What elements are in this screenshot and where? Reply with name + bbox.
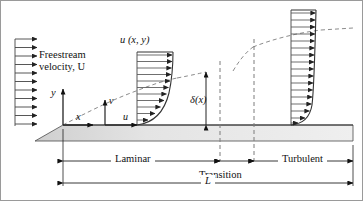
profile-function-label: u (x, y) <box>120 34 149 46</box>
freestream-label-line1: Freestream <box>39 49 86 61</box>
boundary-layer-edge-curve <box>63 28 353 125</box>
length-L-label: L <box>201 175 215 187</box>
region-turbulent-label: Turbulent <box>278 153 327 165</box>
freestream-arrows <box>15 39 37 126</box>
transition-boundaries <box>220 39 254 161</box>
flat-plate <box>35 125 353 141</box>
boundary-layer-diagram: Freestream velocity, U u (x, y) δ(x) y x… <box>0 0 363 201</box>
freestream-label-line2: velocity, U <box>39 61 85 73</box>
axis-x-label: x <box>76 111 81 123</box>
turbulent-velocity-profile <box>291 10 316 125</box>
region-laminar-label: Laminar <box>111 153 155 165</box>
delta-label: δ(x) <box>190 94 207 106</box>
component-u-label: u <box>123 111 128 123</box>
axis-y-label: y <box>51 87 56 99</box>
diagram-canvas <box>1 1 363 201</box>
component-v-label: v <box>109 95 113 107</box>
